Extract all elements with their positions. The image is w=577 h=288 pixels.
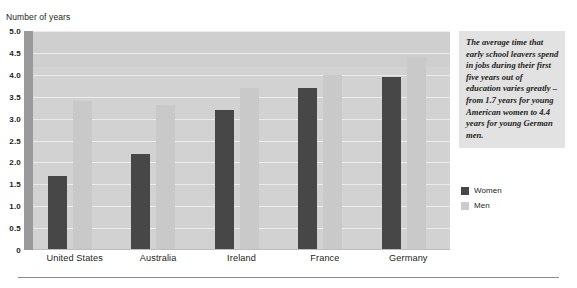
bar-men [73, 101, 92, 250]
y-axis-tick-label: 4.0 [9, 70, 21, 79]
legend-label: Men [474, 201, 490, 210]
y-axis-tick-label: 0.5 [9, 224, 21, 233]
legend-swatch-icon [461, 202, 469, 210]
bar-groups [33, 31, 450, 250]
bar-group [283, 31, 366, 250]
bar-women [298, 88, 317, 250]
plot-area [33, 31, 450, 250]
y-axis-bar [24, 31, 33, 250]
bar-group [33, 31, 116, 250]
y-axis-tick-label: 3.0 [9, 114, 21, 123]
bar-men [407, 57, 426, 250]
legend: WomenMen [461, 186, 561, 216]
y-axis-tick-label: 3.5 [9, 92, 21, 101]
y-axis-tick-label: 5.0 [9, 27, 21, 36]
caption-box: The average time that early school leave… [459, 31, 565, 148]
x-axis-tick-label: United States [33, 253, 116, 263]
bottom-divider [18, 277, 559, 278]
y-axis-tick-label: 2.0 [9, 158, 21, 167]
y-axis-tick-label: 0 [16, 246, 21, 255]
y-axis-tick-label: 1.0 [9, 202, 21, 211]
bar-men [323, 75, 342, 250]
x-axis-tick-label: Australia [116, 253, 199, 263]
bar-men [240, 88, 259, 250]
y-axis-title: Number of years [6, 12, 70, 22]
y-axis-tick-labels: 5.04.54.03.53.02.52.01.51.00.50 [0, 31, 24, 250]
legend-label: Women [474, 186, 502, 195]
chart-figure: Number of years 5.04.54.03.53.02.52.01.5… [0, 0, 577, 288]
bar-group [200, 31, 283, 250]
bar-women [215, 110, 234, 250]
legend-swatch-icon [461, 187, 469, 195]
bar-group [116, 31, 199, 250]
bar-women [48, 176, 67, 250]
x-axis-tick-labels: United StatesAustraliaIrelandFranceGerma… [33, 253, 450, 263]
bar-women [382, 77, 401, 250]
x-axis-tick-label: Germany [367, 253, 450, 263]
y-axis-tick-label: 2.5 [9, 136, 21, 145]
bar-men [156, 105, 175, 250]
x-axis-baseline [33, 249, 450, 250]
bar-group [367, 31, 450, 250]
legend-item: Men [461, 201, 561, 210]
bar-women [131, 154, 150, 250]
x-axis-tick-label: Ireland [200, 253, 283, 263]
legend-item: Women [461, 186, 561, 195]
y-axis-tick-label: 4.5 [9, 48, 21, 57]
x-axis-tick-label: France [283, 253, 366, 263]
y-axis-tick-label: 1.5 [9, 180, 21, 189]
